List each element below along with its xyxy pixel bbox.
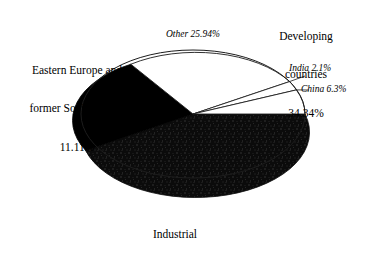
label-china: China 6.3% xyxy=(301,84,367,95)
label-industrial-line1: Industrial xyxy=(110,228,240,241)
label-eastern-europe: Eastern Europe and former Soviet Union 1… xyxy=(4,38,150,180)
label-other: Other 25.94% xyxy=(166,29,266,40)
label-developing-countries: Developing countries 34.34% xyxy=(250,4,362,146)
label-eastern-value: 11.11% xyxy=(4,141,150,154)
label-developing-line1: Developing xyxy=(250,30,362,43)
label-eastern-line2: former Soviet Union xyxy=(4,102,150,115)
label-developing-value: 34.34% xyxy=(250,107,362,120)
label-eastern-line1: Eastern Europe and xyxy=(4,64,150,77)
pie-chart: Developing countries 34.34% Eastern Euro… xyxy=(0,0,367,255)
label-industrial-countries: Industrial countries 54.55% xyxy=(110,202,240,255)
label-india: India 2.1% xyxy=(289,63,363,74)
